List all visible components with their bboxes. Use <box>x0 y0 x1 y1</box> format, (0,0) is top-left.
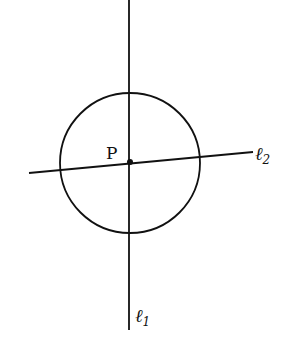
line-l2-subscript: 2 <box>262 153 271 167</box>
diagram-canvas: P ℓ2 ℓ1 <box>0 0 287 345</box>
point-p-dot <box>127 159 133 165</box>
line-l1-subscript: 1 <box>143 315 151 329</box>
point-p-label: P <box>106 143 117 163</box>
line-l1-label: ℓ1 <box>135 305 150 329</box>
line-l2-label: ℓ2 <box>255 143 270 167</box>
line-l2 <box>29 152 253 173</box>
